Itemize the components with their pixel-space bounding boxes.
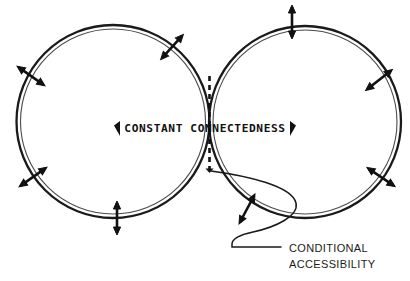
arrow-right-circle-right-lower [365, 165, 397, 190]
center-label-text: CONSTANT CONNECTEDNESS [124, 122, 285, 135]
left-triangle-marker [114, 121, 120, 136]
callout-line-2: ACCESSIBILITY [289, 258, 376, 270]
diagram-canvas: CONSTANT CONNECTEDNESS CONDITIONAL ACCES… [0, 0, 410, 281]
callout-label: CONDITIONAL ACCESSIBILITY [289, 242, 376, 270]
arrow-right-circle-right-upper [363, 67, 394, 94]
radial-arrows-group [15, 5, 397, 235]
callout-leader-curve [211, 171, 296, 247]
arrow-right-circle-top [288, 5, 295, 39]
center-label: CONSTANT CONNECTEDNESS [114, 121, 296, 136]
arrow-left-circle-upper-right [158, 32, 186, 62]
diagram-svg: CONSTANT CONNECTEDNESS CONDITIONAL ACCES… [0, 0, 410, 281]
callout-line-1: CONDITIONAL [289, 242, 368, 254]
arrow-left-circle-left-upper [15, 63, 47, 88]
right-triangle-marker [290, 121, 296, 136]
